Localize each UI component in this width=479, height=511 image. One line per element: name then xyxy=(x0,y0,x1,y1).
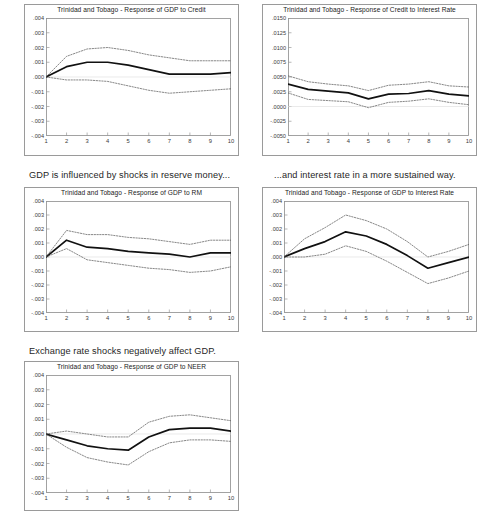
x-axis-tick-label: 8 xyxy=(426,315,429,321)
y-axis-tick-label: .001 xyxy=(24,416,44,422)
x-axis-tick-label: 3 xyxy=(85,138,88,144)
y-axis-tick-label: -.003 xyxy=(24,118,44,124)
chart-credit-to-interest-rate: Trinidad and Tobago - Response of Credit… xyxy=(262,4,477,156)
y-axis-tick-label: -.004 xyxy=(262,310,282,316)
caption-exchange-rate: Exchange rate shocks negatively affect G… xyxy=(29,346,216,356)
y-axis-tick-label: .002 xyxy=(24,226,44,232)
caption-interest-rate: ...and interest rate in a more sustained… xyxy=(274,170,456,180)
x-axis-tick-label: 5 xyxy=(127,495,130,501)
y-axis-tick-label: .004 xyxy=(24,372,44,378)
y-axis-tick-label: -.001 xyxy=(24,446,44,452)
x-axis-tick-label: 6 xyxy=(147,315,150,321)
x-axis-tick-label: 2 xyxy=(65,315,68,321)
x-axis-tick-label: 4 xyxy=(347,138,350,144)
x-axis-tick-label: 9 xyxy=(447,138,450,144)
y-axis-tick-label: .002 xyxy=(262,226,282,232)
y-axis-tick-label: .003 xyxy=(262,212,282,218)
x-axis-tick-label: 7 xyxy=(406,315,409,321)
y-axis-tick-label: .003 xyxy=(24,30,44,36)
y-axis-tick-label: .003 xyxy=(24,212,44,218)
x-axis-tick-label: 1 xyxy=(44,315,47,321)
y-axis-tick-label: -.001 xyxy=(24,89,44,95)
y-axis-tick-label: .0075 xyxy=(262,59,286,65)
x-axis-tick-label: 9 xyxy=(447,315,450,321)
y-axis-tick-label: .000 xyxy=(24,74,44,80)
y-axis-tick-label: .002 xyxy=(24,402,44,408)
x-axis-tick-label: 3 xyxy=(327,138,330,144)
y-axis-tick-label: .001 xyxy=(24,240,44,246)
chart-title: Trinidad and Tobago - Response of Credit… xyxy=(262,6,477,13)
y-axis-tick-label: .0100 xyxy=(262,45,286,51)
chart-title: Trinidad and Tobago - Response of GDP to… xyxy=(24,6,239,13)
y-axis-tick-label: .0125 xyxy=(262,30,286,36)
x-axis-tick-label: 7 xyxy=(168,495,171,501)
y-axis-tick-label: -.001 xyxy=(24,268,44,274)
chart-title: Trinidad and Tobago - Response of GDP to… xyxy=(262,189,477,196)
x-axis-tick-label: 4 xyxy=(106,138,109,144)
x-axis-tick-label: 3 xyxy=(85,495,88,501)
x-axis-tick-label: 6 xyxy=(385,315,388,321)
plot-area xyxy=(284,201,469,313)
x-axis-tick-label: 9 xyxy=(209,138,212,144)
x-axis-tick-label: 10 xyxy=(228,495,234,501)
x-axis-tick-label: 6 xyxy=(147,138,150,144)
y-axis-tick-label: .000 xyxy=(24,431,44,437)
plot-area xyxy=(46,375,231,493)
y-axis-tick-label: -.004 xyxy=(24,490,44,496)
y-axis-tick-label: .002 xyxy=(24,45,44,51)
y-axis-tick-label: -.003 xyxy=(24,475,44,481)
x-axis-tick-label: 8 xyxy=(188,315,191,321)
x-axis-tick-label: 8 xyxy=(188,138,191,144)
plot-area xyxy=(46,201,231,313)
x-axis-tick-label: 2 xyxy=(65,138,68,144)
chart-gdp-to-interest-rate: Trinidad and Tobago - Response of GDP to… xyxy=(262,187,477,332)
y-axis-tick-label: .004 xyxy=(24,198,44,204)
x-axis-tick-label: 3 xyxy=(323,315,326,321)
y-axis-tick-label: -.0050 xyxy=(262,133,286,139)
x-axis-tick-label: 10 xyxy=(466,315,472,321)
chart-title: Trinidad and Tobago - Response of GDP to… xyxy=(24,363,239,370)
x-axis-tick-label: 7 xyxy=(168,315,171,321)
x-axis-tick-label: 4 xyxy=(106,315,109,321)
x-axis-tick-label: 3 xyxy=(85,315,88,321)
chart-title: Trinidad and Tobago - Response of GDP to… xyxy=(24,189,239,196)
y-axis-tick-label: .0050 xyxy=(262,74,286,80)
y-axis-tick-label: -.002 xyxy=(262,282,282,288)
x-axis-tick-label: 7 xyxy=(407,138,410,144)
x-axis-tick-label: 4 xyxy=(106,495,109,501)
x-axis-tick-label: 5 xyxy=(367,138,370,144)
y-axis-tick-label: -.003 xyxy=(262,296,282,302)
x-axis-tick-label: 8 xyxy=(188,495,191,501)
y-axis-tick-label: .004 xyxy=(24,15,44,21)
y-axis-tick-label: .000 xyxy=(24,254,44,260)
x-axis-tick-label: 5 xyxy=(127,138,130,144)
x-axis-tick-label: 5 xyxy=(127,315,130,321)
y-axis-tick-label: -.0025 xyxy=(262,118,286,124)
chart-gdp-to-neer: Trinidad and Tobago - Response of GDP to… xyxy=(24,361,239,511)
x-axis-tick-label: 5 xyxy=(365,315,368,321)
y-axis-tick-label: .0000 xyxy=(262,104,286,110)
x-axis-tick-label: 9 xyxy=(209,315,212,321)
y-axis-tick-label: .004 xyxy=(262,198,282,204)
y-axis-tick-label: -.002 xyxy=(24,104,44,110)
y-axis-tick-label: -.004 xyxy=(24,133,44,139)
y-axis-tick-label: .0025 xyxy=(262,89,286,95)
x-axis-tick-label: 7 xyxy=(168,138,171,144)
y-axis-tick-label: .000 xyxy=(262,254,282,260)
y-axis-tick-label: .0150 xyxy=(262,15,286,21)
y-axis-tick-label: -.004 xyxy=(24,310,44,316)
x-axis-tick-label: 2 xyxy=(303,315,306,321)
x-axis-tick-label: 9 xyxy=(209,495,212,501)
caption-reserve-money: GDP is influenced by shocks in reserve m… xyxy=(29,170,230,180)
x-axis-tick-label: 1 xyxy=(286,138,289,144)
plot-area xyxy=(288,18,469,136)
x-axis-tick-label: 1 xyxy=(282,315,285,321)
x-axis-tick-label: 8 xyxy=(427,138,430,144)
y-axis-tick-label: -.001 xyxy=(262,268,282,274)
x-axis-tick-label: 2 xyxy=(65,495,68,501)
x-axis-tick-label: 10 xyxy=(228,138,234,144)
x-axis-tick-label: 6 xyxy=(387,138,390,144)
y-axis-tick-label: .001 xyxy=(24,59,44,65)
x-axis-tick-label: 10 xyxy=(466,138,472,144)
